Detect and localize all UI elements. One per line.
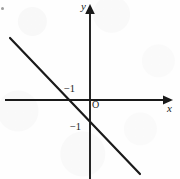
y-axis-arrowhead (85, 4, 95, 14)
coordinate-plane-svg (0, 0, 180, 179)
math-figure: y x −1 −1 O (0, 0, 180, 179)
x-axis-label: x (167, 103, 172, 114)
origin-label: O (92, 100, 99, 110)
x-intercept-tick-label: −1 (64, 84, 75, 95)
y-axis-label: y (81, 1, 86, 12)
plotted-line (10, 38, 140, 174)
y-intercept-tick-label: −1 (70, 122, 81, 133)
